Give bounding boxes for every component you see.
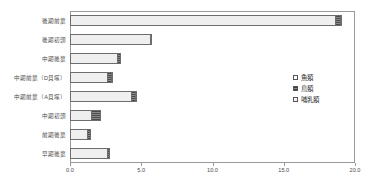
stacked-bar xyxy=(70,91,137,102)
category-label: 中期前葉（A貝塚） xyxy=(0,93,66,101)
bar-row xyxy=(70,144,355,163)
legend-label: 鳥類 xyxy=(301,83,313,94)
x-axis-tick xyxy=(141,163,142,166)
category-label: 中期初頭 xyxy=(0,112,66,120)
bar-segment-bird xyxy=(117,53,121,64)
bar-segment-mammal xyxy=(70,148,107,159)
bar-segment-mammal xyxy=(70,53,117,64)
legend-item: 哺乳類 xyxy=(293,94,319,105)
bar-row xyxy=(70,30,355,49)
legend-swatch-fish xyxy=(293,75,298,80)
x-axis-tick xyxy=(213,163,214,166)
stacked-bar xyxy=(70,15,342,26)
chart-legend: 魚類鳥類哺乳類 xyxy=(293,72,319,105)
x-axis-tick-label: 20.0 xyxy=(340,167,370,173)
bar-row xyxy=(70,11,355,30)
bar-segment-fish xyxy=(135,91,137,102)
stacked-bar xyxy=(70,110,101,121)
bar-row xyxy=(70,125,355,144)
bar-segment-bird xyxy=(87,129,91,140)
x-axis-tick xyxy=(355,163,356,166)
legend-swatch-bird xyxy=(293,86,298,91)
x-axis-tick-label: 15.0 xyxy=(269,167,299,173)
legend-swatch-mammal xyxy=(293,97,298,102)
legend-label: 哺乳類 xyxy=(301,94,319,105)
category-label: 前期後葉 xyxy=(0,131,66,139)
stacked-bar-chart: 後期前葉後期初頭中期後葉中期前葉（D貝塚）中期前葉（A貝塚）中期初頭前期後葉早期… xyxy=(0,0,374,188)
bar-segment-mammal xyxy=(70,91,131,102)
bar-segment-mammal xyxy=(70,129,87,140)
bar-segment-mammal xyxy=(70,110,91,121)
category-label: 中期前葉（D貝塚） xyxy=(0,74,66,82)
x-axis-tick-label: 5.0 xyxy=(126,167,156,173)
bar-segment-mammal xyxy=(70,15,335,26)
bar-segment-fish xyxy=(111,72,113,83)
legend-item: 魚類 xyxy=(293,72,319,83)
category-label: 早期後葉 xyxy=(0,150,66,158)
category-label: 後期前葉 xyxy=(0,17,66,25)
bar-row xyxy=(70,106,355,125)
stacked-bar xyxy=(70,53,121,64)
category-label: 後期初頭 xyxy=(0,36,66,44)
bar-segment-bird xyxy=(150,34,152,45)
x-axis-tick-label: 0.0 xyxy=(55,167,85,173)
bar-segment-mammal xyxy=(70,72,107,83)
category-label: 中期後葉 xyxy=(0,55,66,63)
stacked-bar xyxy=(70,129,91,140)
x-axis-tick xyxy=(284,163,285,166)
bar-segment-fish xyxy=(340,15,342,26)
legend-item: 鳥類 xyxy=(293,83,319,94)
x-axis-tick-label: 10.0 xyxy=(198,167,228,173)
stacked-bar xyxy=(70,34,152,45)
bar-row xyxy=(70,49,355,68)
bar-segment-mammal xyxy=(70,34,150,45)
bar-segment-bird xyxy=(107,148,110,159)
stacked-bar xyxy=(70,148,110,159)
legend-label: 魚類 xyxy=(301,72,313,83)
stacked-bar xyxy=(70,72,113,83)
x-axis-tick xyxy=(70,163,71,166)
bar-segment-bird xyxy=(91,110,101,121)
